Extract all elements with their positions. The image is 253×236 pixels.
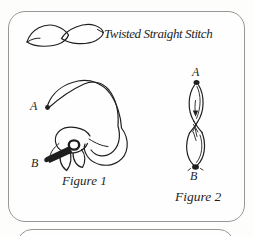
next-panel-edge [17, 229, 234, 236]
figure1-point-a-label: A [30, 100, 37, 112]
stitch-title: Twisted Straight Stitch [104, 27, 212, 40]
figure2-point-a-label: A [192, 66, 199, 78]
figure1-point-b-label: B [31, 157, 38, 169]
book-page: Twisted Straight Stitch A B Figure 1 A B… [0, 0, 253, 236]
figure2-caption: Figure 2 [175, 190, 221, 204]
figure2-point-b-label: B [190, 170, 197, 182]
figure1-caption: Figure 1 [62, 174, 107, 187]
